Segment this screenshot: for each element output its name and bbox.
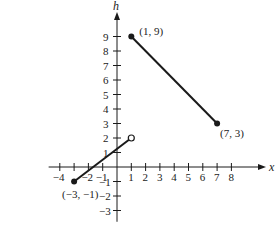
y-tick-label: 6 (103, 74, 109, 86)
x-axis-arrow-icon (258, 164, 266, 170)
x-tick-label: 5 (186, 171, 192, 183)
point-label: (7, 3) (220, 127, 244, 140)
x-tick-label: 6 (200, 171, 206, 183)
segment-2-line (131, 37, 217, 124)
y-tick-label: 8 (103, 45, 109, 57)
y-tick-label: 7 (103, 60, 109, 72)
x-tick-label: 1 (128, 171, 134, 183)
x-tick-label: −2 (81, 171, 93, 183)
x-tick-label: 2 (143, 171, 149, 183)
x-tick-label: 3 (157, 171, 163, 183)
y-axis-arrow-icon (114, 12, 120, 20)
y-tick-label: −3 (99, 205, 111, 217)
point-label: (−3, −1) (62, 188, 99, 201)
y-tick-label: −1 (99, 176, 111, 188)
closed-endpoint-icon (128, 34, 134, 40)
x-axis-label: x (268, 160, 275, 174)
y-tick-label: −2 (99, 190, 111, 202)
y-tick-label: 5 (103, 89, 109, 101)
closed-endpoint-icon (71, 179, 77, 185)
y-axis-label: h (113, 0, 119, 13)
point-label: (1, 9) (139, 25, 163, 38)
x-tick-label: 7 (214, 171, 220, 183)
y-tick-label: 3 (103, 118, 109, 130)
x-tick-label: 4 (171, 171, 177, 183)
y-tick-label: 2 (103, 132, 109, 144)
line-segments (71, 34, 220, 185)
x-tick-label: −4 (53, 171, 65, 183)
open-endpoint-icon (128, 135, 134, 141)
y-tick-label: 4 (103, 103, 109, 115)
x-tick-label: 8 (228, 171, 234, 183)
piecewise-function-graph: xh −4−2−112345678−3−2−1123456789 (1, 9)(… (0, 0, 275, 231)
y-tick-label: 9 (103, 31, 109, 43)
